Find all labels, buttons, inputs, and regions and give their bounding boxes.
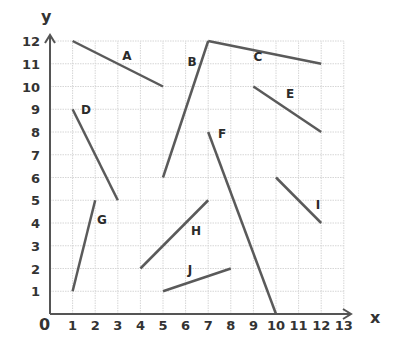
y-tick-label: 3 (31, 239, 40, 254)
x-tick-label: 11 (290, 318, 308, 333)
y-tick-label: 4 (31, 216, 40, 231)
coordinate-grid-chart: 12345678910111213123456789101112 x y 0 A… (0, 0, 397, 345)
segment-label-h: H (191, 224, 201, 238)
x-tick-label: 7 (204, 318, 213, 333)
y-tick-label: 9 (31, 102, 40, 117)
x-tick-label: 13 (335, 318, 353, 333)
segment-label-e: E (286, 87, 294, 101)
x-tick-label: 1 (68, 318, 77, 333)
x-tick-label: 10 (267, 318, 285, 333)
segment-label-a: A (122, 49, 132, 63)
x-tick-label: 12 (312, 318, 330, 333)
x-tick-label: 2 (91, 318, 100, 333)
segment-c (208, 41, 321, 64)
segment-label-i: I (316, 198, 320, 212)
y-tick-label: 1 (31, 284, 40, 299)
x-tick-label: 8 (226, 318, 235, 333)
y-tick-label: 8 (31, 125, 40, 140)
x-tick-label: 6 (181, 318, 190, 333)
origin-label: 0 (39, 315, 50, 334)
y-axis-label: y (41, 7, 52, 26)
segment-label-d: D (81, 103, 91, 117)
y-tick-label: 2 (31, 262, 40, 277)
x-tick-label: 3 (113, 318, 122, 333)
y-tick-label: 12 (22, 34, 40, 49)
y-tick-label: 6 (31, 171, 40, 186)
x-axis-label: x (370, 308, 381, 327)
segment-label-c: C (254, 50, 263, 64)
x-tick-label: 4 (136, 318, 145, 333)
segment-label-b: B (187, 55, 196, 69)
segment-label-g: G (97, 213, 107, 227)
y-tick-label: 5 (31, 193, 40, 208)
y-tick-label: 10 (22, 80, 40, 95)
grid-lines (50, 41, 344, 314)
y-tick-label: 7 (31, 148, 40, 163)
segment-label-j: J (187, 263, 192, 277)
tick-labels: 12345678910111213123456789101112 (22, 34, 353, 333)
segment-j (163, 269, 231, 292)
x-tick-label: 5 (158, 318, 167, 333)
x-tick-label: 9 (249, 318, 258, 333)
segment-labels: ABCDEFGHIJ (81, 49, 320, 277)
segment-label-f: F (218, 127, 226, 141)
y-tick-label: 11 (22, 57, 40, 72)
